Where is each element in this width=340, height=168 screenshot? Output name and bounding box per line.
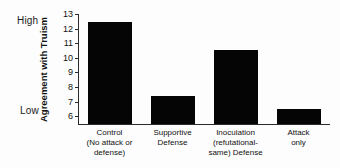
y-tick-label: 12 [63,24,73,33]
y-tick-mark [75,29,78,30]
y-tick-mark [75,43,78,44]
y-tick-mark [75,72,78,73]
y-tick-mark [75,102,78,103]
y-tick-label: 13 [63,10,73,19]
y-tick-mark [75,58,78,59]
y-axis-high-anchor-label: High [17,15,38,26]
category-label-4: Attackonly [263,128,334,148]
bar-2 [151,96,195,124]
bar-chart-figure: High Low Agreement with Truism 678910111… [0,0,340,168]
y-axis-title: Agreement with Truism [38,8,49,132]
bar-1 [88,22,132,124]
y-tick-mark [75,14,78,15]
category-label-line: (refutational- [200,138,271,148]
y-tick-label: 11 [64,39,73,48]
y-tick-mark [75,87,78,88]
x-axis-line [78,124,330,125]
category-label-line: Defense [137,138,208,148]
category-label-line: Attack [263,128,334,138]
y-tick-label: 9 [68,68,73,77]
category-label-2: SupportiveDefense [137,128,208,148]
category-label-line: Supportive [137,128,208,138]
y-tick-label: 8 [68,83,73,92]
category-label-3: Inoculation(refutational-same) Defense [200,128,271,158]
y-tick-label: 7 [68,97,73,106]
category-label-line: Inoculation [200,128,271,138]
category-label-line: only [263,138,334,148]
plot-area: 678910111213 Control(No attack ordefense… [78,14,330,125]
bar-4 [277,109,321,124]
category-label-line: (No attack or [74,138,145,148]
category-label-line: same) Defense [200,148,271,158]
y-tick-label: 6 [68,112,73,121]
category-label-line: Control [74,128,145,138]
y-axis-low-anchor-label: Low [20,105,39,116]
bar-3 [214,50,258,124]
y-axis-line [78,14,79,125]
category-label-line: defense) [74,148,145,158]
category-label-1: Control(No attack ordefense) [74,128,145,158]
y-tick-label: 10 [63,53,73,62]
y-tick-mark [75,116,78,117]
